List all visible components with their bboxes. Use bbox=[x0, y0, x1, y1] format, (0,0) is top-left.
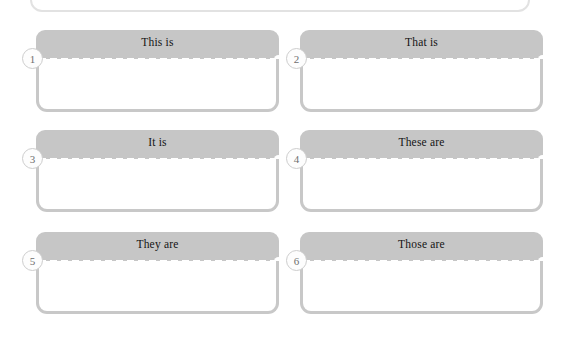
card-answer-area[interactable] bbox=[36, 261, 279, 314]
card-header: This is bbox=[36, 30, 279, 57]
worksheet-card: This is1 bbox=[36, 30, 279, 112]
card-prompt-label: Those are bbox=[300, 237, 543, 251]
card-number-badge: 3 bbox=[22, 148, 43, 169]
card-answer-area[interactable] bbox=[300, 59, 543, 112]
card-header: It is bbox=[36, 130, 279, 157]
card-answer-area[interactable] bbox=[300, 159, 543, 212]
worksheet-card: That is2 bbox=[300, 30, 543, 112]
card-prompt-label: That is bbox=[300, 35, 543, 49]
card-header: Those are bbox=[300, 232, 543, 259]
card-number-badge: 2 bbox=[286, 48, 307, 69]
card-number-badge: 4 bbox=[286, 148, 307, 169]
card-prompt-label: These are bbox=[300, 135, 543, 149]
worksheet-card: Those are6 bbox=[300, 232, 543, 314]
worksheet-card: It is3 bbox=[36, 130, 279, 212]
worksheet-card: These are4 bbox=[300, 130, 543, 212]
card-number-badge: 1 bbox=[22, 48, 43, 69]
card-number-badge: 6 bbox=[286, 250, 307, 271]
card-prompt-label: They are bbox=[36, 237, 279, 251]
card-header: They are bbox=[36, 232, 279, 259]
card-prompt-label: This is bbox=[36, 35, 279, 49]
worksheet-cards-grid: This is1That is2It is3These are4They are… bbox=[0, 0, 563, 337]
card-header: That is bbox=[300, 30, 543, 57]
card-answer-area[interactable] bbox=[36, 59, 279, 112]
card-answer-area[interactable] bbox=[300, 261, 543, 314]
card-answer-area[interactable] bbox=[36, 159, 279, 212]
card-prompt-label: It is bbox=[36, 135, 279, 149]
card-number-badge: 5 bbox=[22, 250, 43, 271]
worksheet-card: They are5 bbox=[36, 232, 279, 314]
card-header: These are bbox=[300, 130, 543, 157]
